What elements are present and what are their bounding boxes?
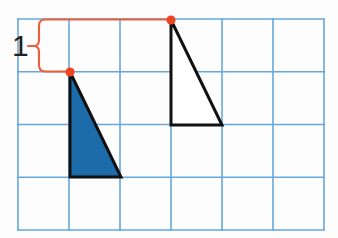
figure-root: 1: [0, 0, 338, 238]
white-triangle-apex-dot: [166, 15, 175, 24]
blue-triangle-apex-dot: [65, 67, 74, 76]
unit-label: 1: [12, 29, 29, 62]
figure-canvas: 1: [0, 0, 338, 238]
figure-background: [0, 0, 338, 238]
